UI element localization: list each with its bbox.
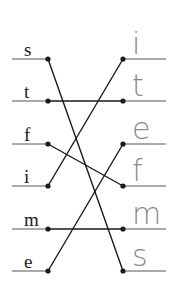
- right-dot: [120, 183, 125, 188]
- right-dot: [120, 226, 125, 231]
- left-label: e: [24, 252, 32, 271]
- matching-diagram: stfime itefms: [0, 0, 178, 289]
- left-dot: [45, 226, 50, 231]
- left-label: m: [24, 210, 39, 229]
- right-dot: [120, 268, 125, 273]
- handwritten-answer: t: [132, 71, 144, 101]
- handwritten-answer: i: [132, 29, 140, 59]
- handwritten-answer: m: [132, 199, 161, 229]
- left-dot: [45, 141, 50, 146]
- handwritten-answer: e: [132, 114, 150, 144]
- left-dot: [45, 268, 50, 273]
- right-dot: [120, 98, 125, 103]
- handwritten-answer: f: [132, 156, 143, 186]
- left-dot: [45, 98, 50, 103]
- right-dot: [120, 141, 125, 146]
- left-label: f: [24, 125, 30, 144]
- handwritten-answer: s: [132, 241, 148, 271]
- left-dot: [45, 183, 50, 188]
- left-label: i: [24, 167, 29, 186]
- left-label: t: [24, 82, 29, 101]
- right-dot: [120, 56, 125, 61]
- left-label: s: [24, 40, 31, 59]
- connection-line: [48, 144, 123, 186]
- left-dot: [45, 56, 50, 61]
